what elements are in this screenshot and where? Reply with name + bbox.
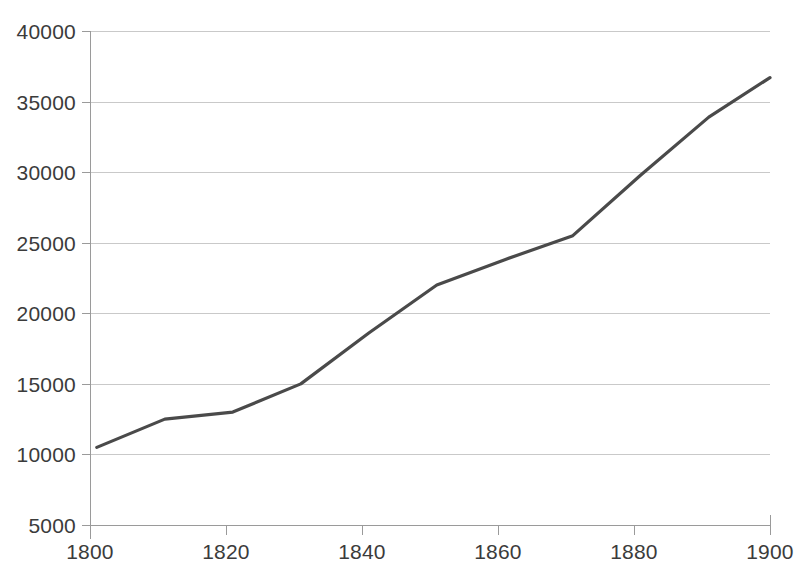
- x-tick-label-1820: 1820: [202, 541, 250, 562]
- x-tick-mark-1900: [770, 526, 771, 535]
- plot-area: [90, 31, 770, 525]
- y-tick-label-15000: 15000: [17, 374, 76, 395]
- y-tick-mark-35000: [82, 102, 91, 103]
- y-tick-mark-30000: [82, 172, 91, 173]
- x-tick-label-1840: 1840: [338, 541, 386, 562]
- y-tick-label-25000: 25000: [17, 233, 76, 254]
- x-tick-mark-1840: [362, 526, 363, 535]
- y-tick-label-30000: 30000: [17, 162, 76, 183]
- gridline-y-40000: [90, 31, 770, 32]
- y-tick-mark-15000: [82, 384, 91, 385]
- plot-right-edge-tick: [770, 515, 771, 526]
- x-tick-mark-1860: [498, 526, 499, 535]
- x-tick-label-1860: 1860: [474, 541, 522, 562]
- x-tick-mark-1820: [226, 526, 227, 535]
- gridline-y-25000: [90, 243, 770, 244]
- y-tick-mark-20000: [82, 313, 91, 314]
- x-tick-mark-1800: [90, 526, 91, 535]
- x-tick-mark-1880: [634, 526, 635, 535]
- y-tick-mark-10000: [82, 454, 91, 455]
- x-axis-line: [90, 525, 771, 526]
- y-tick-label-35000: 35000: [17, 92, 76, 113]
- y-tick-mark-40000: [82, 31, 91, 32]
- x-tick-label-1880: 1880: [610, 541, 658, 562]
- y-tick-label-5000: 5000: [28, 515, 76, 536]
- y-axis-line: [90, 31, 91, 539]
- gridline-y-10000: [90, 454, 770, 455]
- y-tick-label-20000: 20000: [17, 303, 76, 324]
- x-tick-label-1900: 1900: [746, 541, 794, 562]
- gridline-y-15000: [90, 384, 770, 385]
- line-chart: 500010000150002000025000300003500040000 …: [0, 0, 802, 575]
- y-tick-label-10000: 10000: [17, 444, 76, 465]
- y-tick-label-40000: 40000: [17, 21, 76, 42]
- y-tick-mark-25000: [82, 243, 91, 244]
- gridline-y-35000: [90, 102, 770, 103]
- x-tick-label-1800: 1800: [66, 541, 114, 562]
- gridline-y-20000: [90, 313, 770, 314]
- gridline-y-30000: [90, 172, 770, 173]
